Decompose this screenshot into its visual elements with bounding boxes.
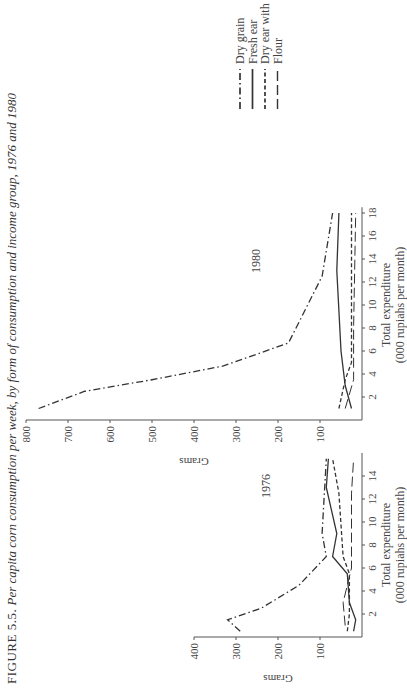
x-tick-label: 6 bbox=[366, 565, 378, 571]
y-tick-label: 500 bbox=[146, 426, 158, 443]
y-tick-label: 100 bbox=[314, 426, 326, 443]
x-tick-label: 10 bbox=[366, 516, 378, 528]
x-axis-label: Total expenditure bbox=[379, 503, 393, 587]
y-tick-label: 400 bbox=[188, 643, 200, 660]
x-tick-label: 12 bbox=[366, 494, 378, 505]
rotated-page: FIGURE 5.5. Per capita corn consumption … bbox=[0, 0, 407, 694]
y-tick-label: 100 bbox=[314, 643, 326, 660]
x-axis-label: Total expenditure bbox=[379, 263, 393, 347]
series-line-dry-ear-with-husk bbox=[339, 213, 352, 409]
chart-1976: 2468101214100200300400GramsTotal expendi… bbox=[188, 453, 407, 685]
x-tick-label: 8 bbox=[366, 542, 378, 548]
x-tick-label: 12 bbox=[366, 277, 378, 288]
legend: Dry grainFresh earDry ear with huskFlour bbox=[233, 0, 285, 109]
x-tick-label: 18 bbox=[366, 207, 378, 219]
y-axis-label: Grams bbox=[263, 673, 292, 685]
x-tick-label: 14 bbox=[366, 253, 378, 265]
x-tick-label: 8 bbox=[366, 325, 378, 331]
charts-canvas: 2468101214100200300400GramsTotal expendi… bbox=[0, 0, 407, 694]
series-line-fresh-ear bbox=[337, 213, 352, 409]
x-tick-label: 4 bbox=[366, 588, 378, 594]
x-axis-sublabel: (000 rupiahs per month) bbox=[393, 247, 407, 363]
x-tick-label: 6 bbox=[366, 348, 378, 354]
x-tick-label: 2 bbox=[366, 611, 378, 617]
series-line-flour bbox=[343, 459, 354, 626]
x-tick-label: 4 bbox=[366, 371, 378, 377]
y-axis-label: Grams bbox=[179, 456, 208, 468]
y-tick-label: 800 bbox=[20, 426, 32, 443]
x-tick-label: 10 bbox=[366, 299, 378, 311]
y-tick-label: 200 bbox=[272, 426, 284, 443]
series-line-dry-grain bbox=[228, 459, 327, 632]
y-tick-label: 400 bbox=[188, 426, 200, 443]
legend-label: Flour bbox=[271, 38, 285, 64]
x-tick-label: 16 bbox=[366, 230, 378, 242]
x-tick-label: 2 bbox=[366, 394, 378, 400]
y-tick-label: 700 bbox=[62, 426, 74, 443]
y-tick-label: 200 bbox=[272, 643, 284, 660]
y-tick-label: 300 bbox=[230, 426, 242, 443]
chart-1980: 24681012141618100200300400500600700800Gr… bbox=[20, 207, 407, 468]
series-line-dry-grain bbox=[39, 213, 333, 409]
x-tick-label: 14 bbox=[366, 470, 378, 482]
y-tick-label: 600 bbox=[104, 426, 116, 443]
series-line-flour bbox=[345, 213, 356, 409]
y-tick-label: 300 bbox=[230, 643, 242, 660]
chart-year-label: 1980 bbox=[249, 249, 263, 273]
series-line-fresh-ear bbox=[326, 459, 355, 632]
chart-year-label: 1976 bbox=[259, 474, 273, 498]
x-axis-sublabel: (000 rupiahs per month) bbox=[393, 487, 407, 603]
